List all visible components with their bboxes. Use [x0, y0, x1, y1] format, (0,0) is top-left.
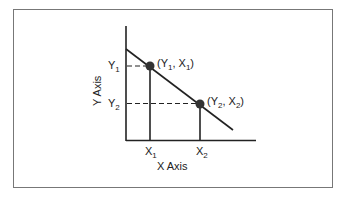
point-1: [146, 62, 155, 71]
point-1-label: (Y1, X1): [157, 57, 194, 72]
point-2-label: (Y2, X2): [207, 95, 244, 110]
y1-label: Y1: [108, 59, 120, 74]
x1-label: X1: [145, 145, 157, 160]
line-graph: Y1 Y2 X1 X2 X Axis Y Axis (Y1, X1) (Y2, …: [0, 0, 346, 199]
x-axis-label: X Axis: [157, 160, 188, 172]
x2-label: X2: [196, 145, 208, 160]
y2-label: Y2: [108, 97, 120, 112]
y-axis-label: Y Axis: [91, 75, 103, 106]
point-2: [196, 100, 205, 109]
